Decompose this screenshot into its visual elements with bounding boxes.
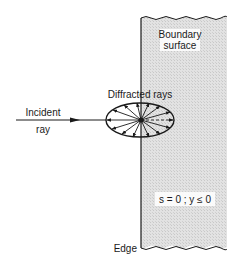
boundary-label-line2: surface: [164, 40, 197, 51]
diffracted-rays-label: Diffracted rays: [108, 89, 172, 100]
incident-arrow-icon: [70, 118, 80, 123]
boundary-surface-region: [141, 16, 227, 249]
incident-label-line2: ray: [36, 124, 50, 135]
diffraction-diagram: Boundary surface Diffracted rays Inciden…: [0, 0, 237, 267]
condition-label: s = 0 ; y ≤ 0: [159, 194, 211, 205]
boundary-label-line1: Boundary: [159, 29, 202, 40]
edge-label: Edge: [114, 243, 138, 254]
incident-label-line1: Incident: [25, 107, 60, 118]
edge-point: [138, 117, 143, 122]
